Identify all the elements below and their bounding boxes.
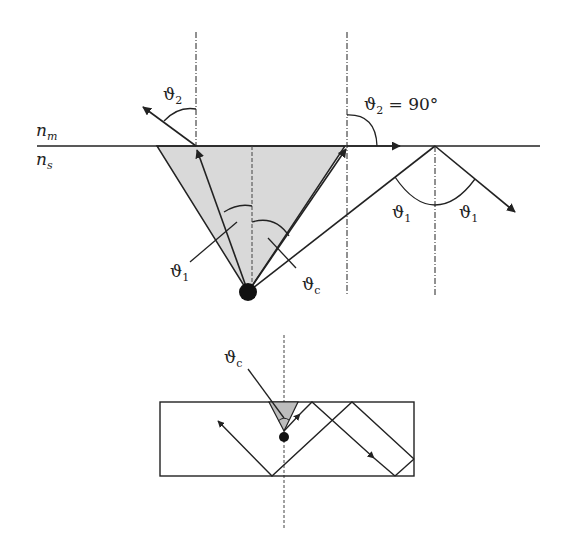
label-theta-c-small: ϑc	[224, 347, 242, 370]
label-theta-c: ϑc	[302, 274, 320, 297]
label-n-m: nm	[36, 120, 57, 143]
leader-theta-c-small	[248, 369, 284, 418]
guided-ray-bounce-1b	[374, 458, 395, 476]
guided-ray-bounce-3	[218, 402, 414, 476]
ray-refracted-out	[143, 107, 196, 146]
label-theta1: ϑ1	[170, 261, 189, 284]
light-source	[239, 283, 257, 301]
arc-theta2-90	[347, 115, 377, 146]
label-theta2: ϑ2	[163, 84, 182, 107]
small-light-source	[279, 432, 289, 442]
label-theta2-90: ϑ2 = 90°	[364, 94, 438, 117]
label-theta1-incident: ϑ1	[392, 202, 411, 225]
label-theta1-reflected: ϑ1	[459, 202, 478, 225]
arc-theta2	[164, 109, 196, 122]
guided-ray-bounce-1	[300, 402, 374, 458]
label-n-s: ns	[36, 149, 53, 172]
guided-ray-bounce-2	[395, 459, 414, 476]
refraction-diagram: nm ns ϑ2 ϑ2 = 90° ϑ1 ϑc ϑ1 ϑ1 ϑc	[0, 0, 575, 544]
